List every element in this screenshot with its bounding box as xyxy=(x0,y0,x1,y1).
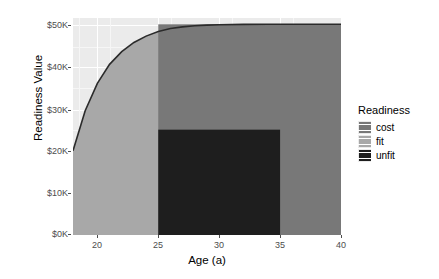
x-tick-mark xyxy=(97,235,98,238)
legend-swatch-cost xyxy=(358,121,371,134)
y-tick-mark xyxy=(68,67,71,68)
x-tick-mark xyxy=(280,235,281,238)
legend-label-cost: cost xyxy=(376,122,394,133)
x-tick-label: 30 xyxy=(199,240,239,250)
x-tick-label: 35 xyxy=(260,240,300,250)
y-tick-mark xyxy=(68,110,71,111)
x-tick-mark xyxy=(341,235,342,238)
y-tick-label: $50K xyxy=(24,20,68,30)
chart-figure: Readiness Value $50K $40K $30K $20K $10K… xyxy=(0,0,439,279)
y-tick-label: $40K xyxy=(24,62,68,72)
x-tick-mark xyxy=(219,235,220,238)
x-tick-mark xyxy=(158,235,159,238)
x-axis-ticks: 20 25 30 35 40 xyxy=(0,235,439,255)
legend-item-cost[interactable]: cost xyxy=(358,120,438,134)
legend-label-unfit: unfit xyxy=(376,150,395,161)
y-tick-mark xyxy=(68,25,71,26)
series-rect-unfit xyxy=(158,130,280,235)
legend: Readiness cost fit unfit xyxy=(358,104,438,162)
legend-item-unfit[interactable]: unfit xyxy=(358,148,438,162)
x-tick-label: 40 xyxy=(321,240,361,250)
y-tick-mark xyxy=(68,193,71,194)
plot-data-layer xyxy=(73,18,341,235)
legend-item-fit[interactable]: fit xyxy=(358,134,438,148)
y-tick-label: $10K xyxy=(24,188,68,198)
legend-label-fit: fit xyxy=(376,136,384,147)
plot-panel xyxy=(73,18,341,235)
x-axis-title: Age (a) xyxy=(73,254,341,266)
legend-title: Readiness xyxy=(358,104,438,116)
legend-swatch-fit xyxy=(358,135,371,148)
y-tick-label: $20K xyxy=(24,146,68,156)
y-tick-mark xyxy=(68,151,71,152)
y-tick-label: $30K xyxy=(24,105,68,115)
x-tick-label: 20 xyxy=(77,240,117,250)
x-tick-label: 25 xyxy=(138,240,178,250)
legend-swatch-unfit xyxy=(358,149,371,162)
